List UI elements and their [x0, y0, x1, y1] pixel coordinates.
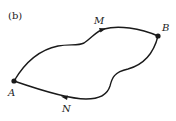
point-b [155, 33, 160, 38]
arrow-upper-icon [99, 28, 106, 33]
closed-path-diagram: (b) A B M N [0, 0, 176, 121]
label-a: A [7, 87, 15, 98]
upper-path-amb [14, 27, 158, 81]
label-b: B [161, 22, 169, 33]
lower-path-bna [14, 36, 158, 99]
point-a [11, 78, 16, 83]
label-m: M [93, 15, 105, 26]
label-n: N [61, 103, 72, 114]
panel-label: (b) [8, 10, 22, 21]
